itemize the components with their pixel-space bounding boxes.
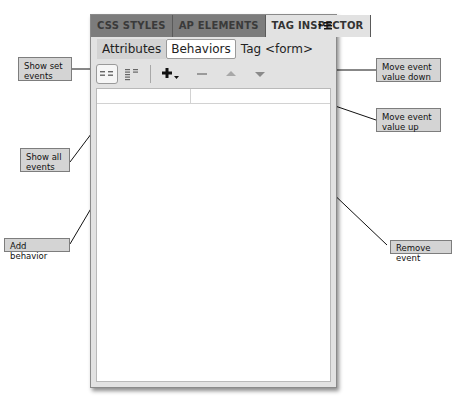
show-all-events-button[interactable] (121, 64, 143, 84)
triangle-down-icon (254, 70, 266, 78)
subtab-attributes[interactable]: Attributes (97, 39, 166, 59)
tab-css-styles[interactable]: CSS STYLES (91, 15, 173, 37)
plus-dropdown-icon (162, 67, 180, 81)
tab-ap-elements[interactable]: AP ELEMENTS (173, 15, 266, 37)
minus-icon (196, 71, 208, 77)
show-all-events-icon (125, 68, 139, 81)
current-tag-label: Tag <form> (241, 42, 313, 56)
tag-inspector-panel: CSS STYLES AP ELEMENTS TAG INSPECTOR Att… (90, 14, 337, 388)
callout-show-all-events: Show all events (20, 148, 70, 172)
triangle-up-icon (225, 70, 237, 78)
callout-move-event-down: Move event value down (376, 58, 441, 82)
callout-add-behavior: Add behavior (4, 238, 70, 252)
move-event-up-button[interactable] (220, 64, 242, 84)
show-set-events-icon (100, 70, 114, 78)
grid-header-row (97, 89, 330, 104)
toolbar-separator (150, 65, 151, 83)
behaviors-grid[interactable] (96, 88, 331, 382)
behaviors-toolbar (91, 62, 336, 86)
add-behavior-button[interactable] (160, 64, 182, 84)
callout-remove-event: Remove event (390, 240, 452, 254)
panel-options-menu-icon[interactable] (314, 15, 336, 37)
callout-show-set-events: Show set events (18, 57, 72, 81)
events-column-header (97, 89, 191, 103)
inspector-subtabs: Attributes Behaviors Tag <form> (91, 37, 336, 61)
panel-tab-bar: CSS STYLES AP ELEMENTS TAG INSPECTOR (91, 15, 336, 37)
show-set-events-button[interactable] (96, 64, 118, 84)
move-event-down-button[interactable] (249, 64, 271, 84)
subtab-behaviors[interactable]: Behaviors (166, 39, 236, 59)
remove-event-button[interactable] (191, 64, 213, 84)
callout-move-event-up: Move event value up (376, 108, 441, 132)
